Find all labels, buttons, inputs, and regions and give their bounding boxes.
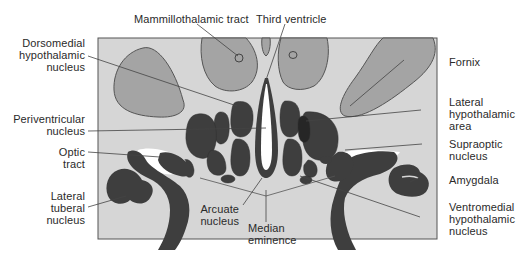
label-median-eminence: Median eminence	[248, 222, 297, 246]
label-lateral-hypo-line3: area	[449, 120, 515, 132]
label-optic-line2: tract	[59, 158, 85, 170]
label-optic-line1: Optic	[59, 146, 85, 158]
label-arcuate-line2: nucleus	[200, 215, 239, 227]
label-dorsomedial-hypothalamic-nucleus: Dorsomedial hypothalamic nucleus	[19, 37, 85, 73]
label-ventromedial-line1: Ventromedial	[449, 201, 515, 213]
label-fornix: Fornix	[449, 56, 480, 68]
label-supraoptic-line1: Supraoptic	[449, 138, 503, 150]
label-lateral-tuberal-line2: tuberal	[46, 202, 85, 214]
label-lateral-hypothalamic-area: Lateral hypothalamic area	[449, 96, 515, 132]
mammillothalamic-tract-left	[235, 54, 243, 62]
label-amygdala: Amygdala	[449, 174, 499, 186]
label-median-line1: Median	[248, 222, 297, 234]
mammillothalamic-tract-right	[289, 52, 297, 59]
label-ventromedial-line3: nucleus	[449, 225, 515, 237]
label-lateral-hypo-line1: Lateral	[449, 96, 515, 108]
label-dorsomedial-line1: Dorsomedial	[19, 37, 85, 49]
label-dorsomedial-line2: hypothalamic	[19, 49, 85, 61]
label-dorsomedial-line3: nucleus	[19, 61, 85, 73]
label-periventricular-nucleus: Periventricular nucleus	[13, 113, 85, 137]
label-lateral-tuberal-line3: nucleus	[46, 214, 85, 226]
supraoptic-small-right	[320, 156, 332, 164]
label-arcuate-nucleus: Arcuate nucleus	[200, 203, 239, 227]
label-lateral-hypo-line2: hypothalamic	[449, 108, 515, 120]
label-lateral-tuberal-nucleus: Lateral tuberal nucleus	[46, 190, 85, 226]
label-supraoptic-line2: nucleus	[449, 150, 503, 162]
label-mammillothalamic-tract: Mammillothalamic tract	[134, 13, 249, 25]
label-median-line2: eminence	[248, 234, 297, 246]
label-ventromedial-line2: hypothalamic	[449, 213, 515, 225]
label-lateral-tuberal-line1: Lateral	[46, 190, 85, 202]
label-arcuate-line1: Arcuate	[200, 203, 239, 215]
label-optic-tract: Optic tract	[59, 146, 85, 170]
label-ventromedial-hypothalamic-nucleus: Ventromedial hypothalamic nucleus	[449, 201, 515, 237]
label-third-ventricle: Third ventricle	[256, 13, 327, 25]
label-periventricular-line2: nucleus	[13, 125, 85, 137]
label-supraoptic-nucleus: Supraoptic nucleus	[449, 138, 503, 162]
label-periventricular-line1: Periventricular	[13, 113, 85, 125]
